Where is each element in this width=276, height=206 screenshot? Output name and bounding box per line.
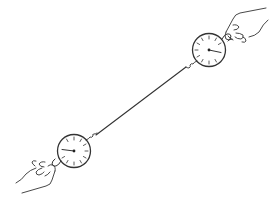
right-hand bbox=[225, 8, 268, 42]
bottom-left-scale bbox=[52, 133, 97, 168]
needle bbox=[209, 50, 221, 53]
needle-pivot bbox=[208, 49, 211, 52]
needle-pivot bbox=[73, 150, 76, 153]
spring-scale-diagram bbox=[0, 0, 276, 206]
top-right-scale bbox=[186, 34, 231, 69]
string bbox=[96, 67, 186, 135]
hook bbox=[86, 133, 97, 140]
left-hand bbox=[16, 161, 55, 193]
needle bbox=[62, 150, 74, 152]
hook bbox=[186, 61, 197, 68]
